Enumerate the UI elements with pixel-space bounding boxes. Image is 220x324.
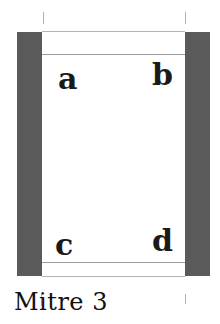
- corner-label-c: c: [55, 230, 73, 260]
- right-bar: [185, 32, 210, 276]
- left-bar: [17, 32, 42, 276]
- tick-top-left: [43, 12, 44, 24]
- corner-label-d: d: [152, 226, 173, 256]
- tick-top-right: [185, 12, 186, 24]
- corner-label-b: b: [152, 60, 173, 90]
- top-inner-line: [42, 54, 185, 55]
- corner-label-a: a: [58, 64, 77, 94]
- tick-bottom-right: [185, 294, 186, 304]
- bottom-inner-line: [42, 262, 185, 263]
- diagram-caption: Mitre 3: [14, 290, 108, 314]
